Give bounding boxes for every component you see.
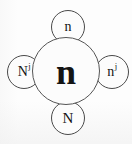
node-diagram: n Nj n nj N: [0, 0, 132, 144]
right-node-label-base: n: [107, 64, 114, 79]
top-node-label: n: [65, 20, 72, 34]
right-node: nj: [95, 55, 129, 89]
bottom-node: N: [51, 101, 85, 135]
right-node-label-superscript: j: [115, 61, 117, 71]
left-node-label-base: N: [18, 64, 28, 79]
center-node: n: [32, 37, 100, 105]
center-node-label-base: n: [56, 52, 76, 92]
left-node-label-superscript: j: [28, 61, 30, 71]
center-node-label: n: [56, 54, 76, 90]
left-node-label: Nj: [18, 65, 31, 79]
bottom-node-label-base: N: [63, 110, 74, 126]
bottom-node-label: N: [63, 111, 74, 126]
right-node-label: nj: [107, 65, 116, 79]
top-node-label-base: n: [65, 19, 72, 34]
